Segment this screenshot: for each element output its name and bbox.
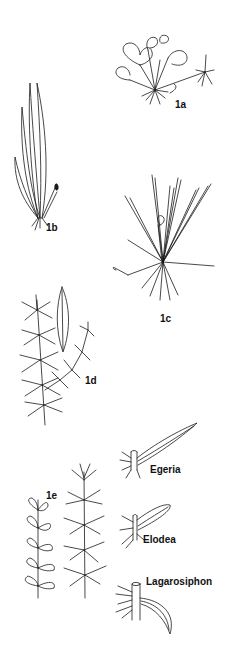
panel-label-1e: 1e	[46, 491, 57, 501]
plant-1e-drawing	[25, 464, 106, 598]
leaf-label-lagarosiphon: Lagarosiphon	[146, 577, 212, 587]
leaf-label-elodea: Elodea	[143, 535, 176, 545]
botanical-illustration	[0, 0, 227, 665]
panel-label-1d: 1d	[85, 376, 97, 386]
lagarosiphon-leaf-drawing	[116, 582, 171, 634]
panel-label-1c: 1c	[160, 314, 171, 324]
plant-1d-drawing	[20, 287, 94, 425]
panel-label-1a: 1a	[175, 100, 186, 110]
plant-1c-drawing	[113, 175, 214, 300]
plant-1b-drawing	[15, 83, 58, 230]
leaf-label-egeria: Egeria	[150, 465, 181, 475]
panel-label-1b: 1b	[46, 223, 58, 233]
plant-1a-drawing	[116, 35, 214, 104]
